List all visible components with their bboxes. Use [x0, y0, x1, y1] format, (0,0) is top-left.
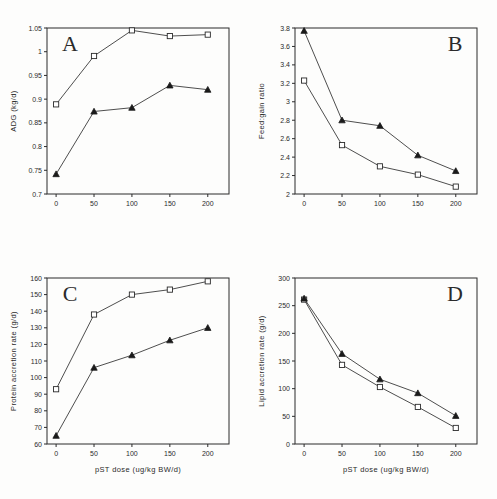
y-axis-tick-label: 0 — [286, 441, 290, 448]
y-axis-tick-label: 100 — [30, 374, 42, 381]
data-point-filled-triangle — [453, 168, 459, 174]
data-point-filled-triangle — [453, 413, 459, 419]
series-line-open-square — [304, 300, 456, 428]
data-point-filled-triangle — [53, 171, 59, 177]
x-axis-tick-label: 0 — [54, 200, 58, 207]
data-point-open-square — [415, 404, 420, 409]
y-axis-tick-label: 200 — [278, 330, 290, 337]
y-axis-tick-label: 0.7 — [32, 191, 42, 198]
data-point-filled-triangle — [339, 351, 345, 357]
data-point-open-square — [91, 53, 96, 58]
panel-letter-c: C — [63, 281, 78, 306]
y-axis-title: ADG (kg/d) — [9, 90, 18, 132]
series-line-open-square — [304, 81, 456, 187]
data-point-open-square — [415, 172, 420, 177]
x-axis-tick-label: 100 — [126, 450, 138, 457]
data-point-filled-triangle — [377, 376, 383, 382]
data-point-open-square — [167, 33, 172, 38]
y-axis-tick-label: 150 — [30, 291, 42, 298]
y-axis-tick-label: 90 — [34, 391, 42, 398]
y-axis-tick-label: 250 — [278, 302, 290, 309]
x-axis-tick-label: 50 — [90, 200, 98, 207]
series-line-filled-triangle — [304, 298, 456, 415]
y-axis-tick-label: 2.6 — [280, 135, 290, 142]
data-point-open-square — [339, 362, 344, 367]
data-point-open-square — [453, 425, 458, 430]
data-point-open-square — [377, 164, 382, 169]
chart-panel-c-svg: 6070809010011012013014015016005010015020… — [0, 250, 248, 499]
chart-panel-b: 22.22.42.62.833.23.43.63.8050100150200Fe… — [248, 0, 496, 249]
x-axis-tick-label: 0 — [54, 450, 58, 457]
y-axis-tick-label: 2 — [286, 191, 290, 198]
y-axis-tick-label: 110 — [31, 358, 42, 365]
data-point-open-square — [54, 102, 59, 107]
data-point-filled-triangle — [415, 152, 421, 158]
y-axis-tick-label: 1 — [38, 48, 42, 55]
y-axis-tick-label: 100 — [278, 385, 290, 392]
y-axis-tick-label: 120 — [30, 341, 42, 348]
panel-letter-a: A — [62, 31, 78, 56]
y-axis-tick-label: 3 — [286, 98, 290, 105]
panel-letter-b: B — [448, 31, 463, 56]
data-point-open-square — [129, 28, 134, 33]
data-point-filled-triangle — [167, 82, 173, 88]
y-axis-tick-label: 0.9 — [32, 96, 42, 103]
y-axis-tick-label: 300 — [278, 275, 290, 282]
x-axis-tick-label: 150 — [164, 450, 176, 457]
chart-panel-d: 050100150200250300050100150200Lipid accr… — [248, 250, 496, 499]
y-axis-title: Feed:gain ratio — [257, 83, 266, 139]
chart-panel-b-svg: 22.22.42.62.833.23.43.63.8050100150200Fe… — [248, 0, 496, 249]
y-axis-tick-label: 80 — [34, 407, 42, 414]
data-point-open-square — [54, 387, 59, 392]
y-axis-tick-label: 0.75 — [28, 167, 42, 174]
data-point-open-square — [302, 78, 307, 83]
data-point-open-square — [167, 287, 172, 292]
series-line-filled-triangle — [304, 31, 456, 171]
x-axis-tick-label: 50 — [338, 200, 346, 207]
y-axis-tick-label: 1.05 — [28, 25, 42, 32]
x-axis-tick-label: 0 — [302, 200, 306, 207]
x-axis-tick-label: 150 — [412, 450, 424, 457]
y-axis-tick-label: 3.4 — [280, 61, 290, 68]
x-axis-tick-label: 50 — [90, 450, 98, 457]
data-point-filled-triangle — [129, 104, 135, 110]
y-axis-tick-label: 50 — [282, 413, 290, 420]
data-point-filled-triangle — [205, 325, 211, 331]
y-axis-tick-label: 150 — [278, 358, 290, 365]
y-axis-title: Lipid accretion rate (g/d) — [257, 315, 266, 406]
series-line-filled-triangle — [56, 85, 208, 174]
x-axis-tick-label: 100 — [374, 450, 386, 457]
x-axis-tick-label: 200 — [202, 200, 214, 207]
data-point-filled-triangle — [53, 433, 59, 439]
x-axis-tick-label: 150 — [412, 200, 424, 207]
y-axis-tick-label: 60 — [34, 441, 42, 448]
y-axis-tick-label: 130 — [30, 324, 42, 331]
y-axis-tick-label: 3.6 — [280, 43, 290, 50]
y-axis-tick-label: 0.95 — [28, 72, 42, 79]
series-line-open-square — [56, 30, 208, 104]
data-point-open-square — [129, 292, 134, 297]
x-axis-title: pST dose (ug/kg BW/d) — [95, 465, 181, 474]
y-axis-tick-label: 140 — [30, 308, 42, 315]
data-point-open-square — [205, 279, 210, 284]
y-axis-tick-label: 0.85 — [28, 119, 42, 126]
data-point-filled-triangle — [415, 390, 421, 396]
x-axis-tick-label: 100 — [374, 200, 386, 207]
data-point-open-square — [91, 312, 96, 317]
y-axis-tick-label: 2.4 — [280, 154, 290, 161]
x-axis-title: pST dose (ug/kg BW/d) — [343, 465, 429, 474]
chart-panel-a-svg: 0.70.750.80.850.90.9511.05050100150200AD… — [0, 0, 248, 249]
x-axis-tick-label: 200 — [450, 200, 462, 207]
data-point-filled-triangle — [129, 352, 135, 358]
data-point-open-square — [339, 143, 344, 148]
figure-container: 0.70.750.80.850.90.9511.05050100150200AD… — [0, 0, 497, 499]
x-axis-tick-label: 0 — [302, 450, 306, 457]
y-axis-tick-label: 3.2 — [280, 80, 290, 87]
x-axis-tick-label: 200 — [202, 450, 214, 457]
chart-panel-d-svg: 050100150200250300050100150200Lipid accr… — [248, 250, 496, 499]
y-axis-title: Protein accretion rate (g/d) — [9, 311, 18, 411]
y-axis-tick-label: 3.8 — [280, 25, 290, 32]
chart-panel-a: 0.70.750.80.850.90.9511.05050100150200AD… — [0, 0, 248, 249]
data-point-open-square — [205, 32, 210, 37]
data-point-open-square — [453, 184, 458, 189]
